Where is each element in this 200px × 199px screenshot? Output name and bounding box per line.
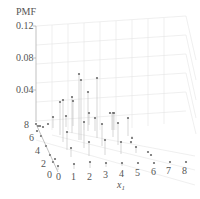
y-tick: 6 (29, 132, 34, 143)
z-tick: 0.08 (16, 52, 34, 63)
svg-text:1: 1 (71, 171, 76, 182)
back-wall-grid (36, 16, 196, 185)
z-axis-label: PMF (16, 6, 36, 17)
svg-text:7: 7 (166, 165, 171, 176)
y-tick: 0 (47, 169, 52, 180)
y-tick: 2 (41, 158, 46, 169)
svg-text:6: 6 (151, 166, 156, 177)
z-tick: 0.12 (16, 20, 34, 31)
x-ticks: 0 1 2 3 4 5 6 7 8 (56, 165, 187, 182)
y-tick: 4 (35, 145, 40, 156)
svg-text:2: 2 (87, 171, 92, 182)
svg-text:8: 8 (182, 165, 187, 176)
pmf-3d-stem-chart: PMF 0.12 0.08 0.04 8 6 4 2 0 0 1 2 3 4 5… (0, 0, 200, 199)
x-axis-label: x1 (116, 179, 125, 192)
svg-text:0: 0 (56, 171, 61, 182)
z-tick: 0.04 (16, 84, 34, 95)
chart-canvas: PMF 0.12 0.08 0.04 8 6 4 2 0 0 1 2 3 4 5… (0, 0, 200, 199)
y-tick: 8 (24, 119, 29, 130)
svg-text:4: 4 (119, 168, 124, 179)
svg-text:3: 3 (103, 169, 108, 180)
svg-text:5: 5 (135, 167, 140, 178)
